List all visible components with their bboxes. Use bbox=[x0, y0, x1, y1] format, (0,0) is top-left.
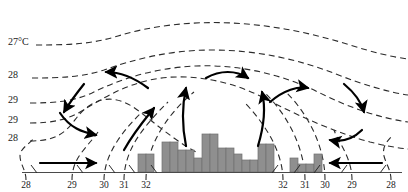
axis-value-label: 28 bbox=[21, 180, 31, 190]
axis-tick bbox=[129, 165, 135, 173]
isotherm-value-label: 27°C bbox=[8, 36, 29, 47]
isotherm-value-label: 29 bbox=[8, 94, 18, 105]
isotherm-vertical-28-left bbox=[20, 138, 34, 180]
cross-section-canvas: 27°C28292928 28293031323231302928 bbox=[0, 0, 408, 192]
arrow-subsidence-right bbox=[344, 84, 364, 112]
building-bar bbox=[250, 160, 258, 172]
building-bar bbox=[146, 154, 154, 172]
axis-value-label: 32 bbox=[278, 180, 288, 190]
arrow-updraft-right bbox=[258, 92, 264, 146]
arrow-updraft-center bbox=[183, 88, 186, 146]
building-bar bbox=[202, 134, 210, 172]
axis-value-label: 31 bbox=[119, 180, 129, 190]
building-bar bbox=[186, 150, 194, 172]
building-bar bbox=[306, 164, 314, 172]
building-bar bbox=[178, 150, 186, 172]
building-bar bbox=[258, 144, 266, 172]
axis-value-label: 30 bbox=[320, 180, 330, 190]
axis-tick bbox=[109, 165, 115, 173]
axis-value-label: 32 bbox=[141, 180, 151, 190]
arrow-convergence-upper-left bbox=[106, 72, 148, 88]
axis-value-label: 28 bbox=[386, 180, 396, 190]
arrow-outflow-center-right bbox=[206, 72, 248, 78]
building-bar bbox=[234, 154, 242, 172]
isotherm-label-group: 27°C28292928 bbox=[8, 36, 29, 143]
axis-tick bbox=[380, 165, 386, 173]
building-bar bbox=[298, 164, 306, 172]
building-bar bbox=[266, 144, 274, 172]
building-bar bbox=[162, 142, 170, 172]
building-bar bbox=[314, 154, 322, 172]
axis-value-label: 30 bbox=[99, 180, 109, 190]
axis-value-label: 31 bbox=[300, 180, 310, 190]
isotherm-value-label: 29 bbox=[8, 114, 18, 125]
building-bar bbox=[210, 134, 218, 172]
building-profile-histogram bbox=[138, 134, 322, 172]
axis-tick bbox=[31, 165, 37, 173]
isotherm-vertical-28-right bbox=[383, 136, 392, 180]
building-bar bbox=[218, 148, 226, 172]
axis-value-label: 29 bbox=[347, 180, 357, 190]
isotherm-vertical-30-left bbox=[104, 114, 140, 180]
arrow-divergence-left-mid bbox=[60, 113, 96, 135]
axis-tick bbox=[341, 165, 347, 173]
arrow-updraft-center-left bbox=[124, 108, 154, 150]
isotherm-27C bbox=[36, 23, 408, 59]
arrow-subsidence-left bbox=[64, 84, 84, 112]
building-bar bbox=[226, 148, 234, 172]
building-bar bbox=[170, 142, 178, 172]
axis-tick bbox=[77, 165, 83, 173]
isotherm-value-label: 28 bbox=[8, 132, 18, 143]
axis-value-label: 29 bbox=[67, 180, 77, 190]
axis-label-group: 28293031323231302928 bbox=[21, 180, 396, 190]
cross-section-figure: 27°C28292928 28293031323231302928 bbox=[0, 0, 408, 192]
isotherm-value-label: 28 bbox=[8, 69, 18, 80]
building-bar bbox=[194, 158, 202, 172]
building-bar bbox=[242, 160, 250, 172]
building-bar bbox=[138, 154, 146, 172]
